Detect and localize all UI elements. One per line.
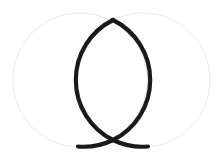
canvas-background — [0, 0, 223, 159]
figure-canvas — [0, 0, 223, 159]
vesica-piscis-diagram — [0, 0, 223, 159]
